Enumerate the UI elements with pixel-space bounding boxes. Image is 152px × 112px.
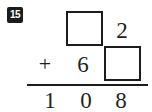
answer-box-top-tens[interactable] — [66, 11, 103, 46]
answer-box-bottom-ones[interactable] — [104, 46, 141, 81]
digit-bottom-tens: 6 — [68, 53, 98, 76]
sum-digit-tens: 0 — [72, 89, 100, 112]
sum-digit-hundreds: 1 — [36, 89, 64, 112]
sum-digit-ones: 8 — [107, 89, 135, 112]
problem-number-badge: 15 — [7, 7, 23, 23]
digit-top-ones: 2 — [107, 19, 137, 42]
sum-divider-rule — [27, 84, 148, 86]
plus-sign-icon: + — [31, 53, 59, 75]
addition-problem: 15 2 + 6 1 0 8 — [0, 0, 152, 112]
problem-number-label: 15 — [10, 10, 20, 20]
